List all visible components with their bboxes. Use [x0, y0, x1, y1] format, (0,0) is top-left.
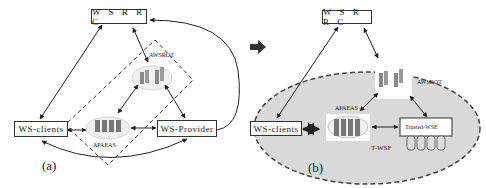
apaeas-icon-a	[86, 117, 130, 139]
transition-arrow-icon	[250, 40, 266, 54]
awsrot-icon-b	[375, 64, 412, 99]
wsrrc-node-b: W S R R C	[322, 10, 372, 24]
awsrot-label-b: AWSROT	[417, 79, 442, 85]
ws-clients-node-b: WS-clients	[250, 121, 302, 136]
apaeas-label-a: APAEAS	[93, 142, 116, 148]
awsrot-label-a: AWSROT	[149, 52, 174, 58]
ws-provider-node-a: WS-Provider	[157, 120, 217, 137]
ws-clients-node-a: WS-clients	[14, 121, 68, 137]
apaeas-icon-b	[326, 114, 370, 141]
diagram-canvas	[0, 0, 486, 188]
caption-a: (a)	[42, 158, 56, 174]
dashed-region-a	[65, 40, 193, 165]
caption-b: (b)	[308, 160, 323, 176]
trusted-wse-label: Trusted-WSE	[405, 124, 438, 130]
apaeas-label-b: APAEAS	[335, 105, 358, 111]
wsrrc-node-a: W S R R C	[91, 9, 147, 24]
t-wsf-label: T-WSF	[371, 144, 391, 152]
